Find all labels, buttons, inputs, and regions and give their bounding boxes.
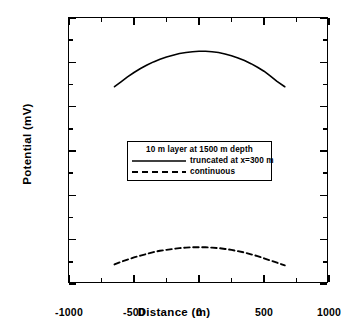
x-tick-label: -500	[104, 307, 164, 318]
legend-label-truncated: truncated at x=300 m	[190, 155, 274, 166]
y-axis-title: Potential (mV)	[21, 69, 33, 219]
legend-entry-continuous: continuous	[132, 166, 267, 177]
chart-figure: Potential (mV) Distance (m) 300400500600…	[0, 0, 348, 330]
x-tick-label: 1000	[299, 307, 348, 318]
legend-label-continuous: continuous	[190, 166, 235, 177]
series-line-2	[115, 247, 285, 265]
plot-area: 300400500600700800900 -1000-50005001000 …	[68, 17, 328, 283]
x-tick-label: 500	[234, 307, 294, 318]
x-tick-label: -1000	[39, 307, 99, 318]
legend-line-sample-dashed	[132, 168, 186, 176]
legend-entry-truncated: truncated at x=300 m	[132, 155, 267, 166]
legend: 10 m layer at 1500 m depth truncated at …	[127, 141, 272, 181]
series-line-1	[115, 51, 285, 86]
legend-line-sample-solid	[132, 157, 186, 165]
legend-title: 10 m layer at 1500 m depth	[132, 144, 267, 155]
x-tick-label: 0	[169, 307, 229, 318]
